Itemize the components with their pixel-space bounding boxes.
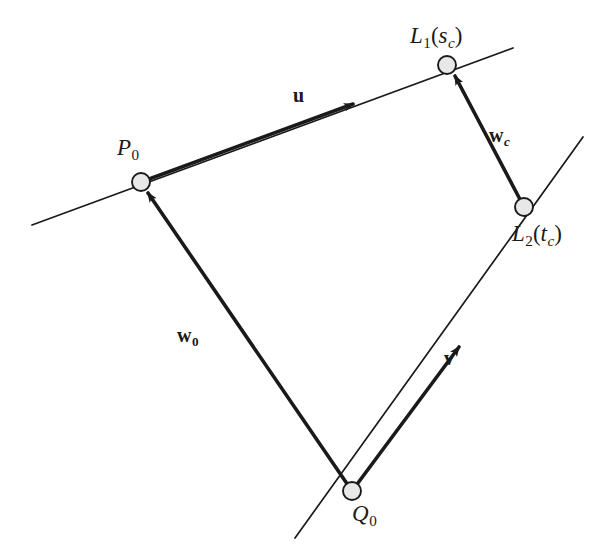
label-L2-open-paren: ( [533, 221, 541, 246]
label-L1-close-paren: ) [455, 23, 463, 48]
label-L2-sub: 2 [525, 232, 533, 249]
label-L2-arg: t [541, 221, 547, 246]
label-wc-sub: c [504, 134, 510, 149]
node-L1sc [438, 56, 456, 74]
label-wc-base: w [489, 124, 503, 146]
label-w0-base: w [177, 324, 191, 346]
label-L2-tc: L2(tc) [512, 222, 562, 248]
label-P0: P0 [117, 136, 139, 162]
label-Q0-sub: 0 [369, 512, 377, 529]
node-Q0 [343, 482, 361, 500]
geometry-diagram: P0 Q0 L1(sc) L2(tc) u v w0 wc [0, 0, 603, 557]
label-L1-base: L [410, 23, 423, 48]
label-L1-sc: L1(sc) [410, 24, 462, 50]
label-L1-open-paren: ( [431, 23, 439, 48]
label-L2-base: L [512, 221, 525, 246]
label-Q0-base: Q [352, 501, 369, 526]
label-L2-close-paren: ) [554, 221, 562, 246]
label-vector-w0: w0 [177, 325, 199, 348]
label-Q0: Q0 [352, 502, 377, 528]
label-v-base: v [444, 347, 454, 369]
line-L1 [32, 48, 513, 225]
label-P0-sub: 0 [132, 146, 140, 163]
label-L1-arg: s [439, 23, 448, 48]
node-P0 [132, 173, 150, 191]
label-vector-v: v [444, 348, 454, 368]
label-P0-base: P [117, 135, 131, 160]
label-L1-arg-sub: c [448, 34, 455, 51]
vector-v [352, 347, 459, 491]
label-vector-wc: wc [489, 125, 510, 148]
label-w0-sub: 0 [192, 334, 199, 349]
label-L1-sub: 1 [423, 34, 431, 51]
label-u-base: u [293, 84, 304, 106]
line-L2 [295, 137, 583, 538]
vector-u [141, 104, 353, 182]
label-vector-u: u [293, 85, 304, 105]
node-L2tc [515, 198, 533, 216]
